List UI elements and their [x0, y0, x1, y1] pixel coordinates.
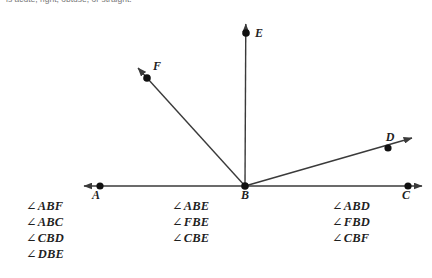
- point-label-E: E: [254, 26, 263, 40]
- angle-item[interactable]: ∠ABF: [26, 198, 64, 214]
- geometry-worksheet-page: is acute, right, obtuse, or straight. A …: [0, 0, 432, 278]
- angle-item[interactable]: ∠CBF: [332, 230, 370, 246]
- angle-column-2: ∠ABE ∠FBE ∠CBE: [172, 198, 209, 246]
- angle-item[interactable]: ∠DBE: [26, 246, 64, 262]
- point-label-F: F: [152, 59, 161, 73]
- angle-item[interactable]: ∠ABE: [172, 198, 209, 214]
- point-D: [384, 144, 391, 151]
- angle-item[interactable]: ∠ABC: [26, 214, 64, 230]
- angle-item-label: ABE: [184, 199, 210, 213]
- angle-symbol-icon: ∠: [332, 231, 344, 245]
- angle-item[interactable]: ∠CBE: [172, 230, 209, 246]
- angle-symbol-icon: ∠: [332, 199, 344, 213]
- point-label-D: D: [385, 130, 395, 144]
- angle-item-label: ABC: [38, 215, 64, 229]
- angle-symbol-icon: ∠: [172, 231, 184, 245]
- angle-symbol-icon: ∠: [26, 231, 38, 245]
- angle-item[interactable]: ∠CBD: [26, 230, 64, 246]
- angle-column-3: ∠ABD ∠FBD ∠CBF: [332, 198, 370, 246]
- angle-diagram: A B C D E F: [0, 0, 432, 200]
- angle-item[interactable]: ∠ABD: [332, 198, 370, 214]
- angle-item-label: FBD: [344, 215, 370, 229]
- angle-item-label: CBF: [344, 231, 370, 245]
- angle-item-label: CBD: [38, 231, 64, 245]
- angle-symbol-icon: ∠: [172, 215, 184, 229]
- point-F: [143, 74, 151, 82]
- angle-item[interactable]: ∠FBE: [172, 214, 209, 230]
- ray-BF: [138, 68, 245, 186]
- angle-item-label: DBE: [38, 247, 64, 261]
- angle-item-label: CBE: [184, 231, 210, 245]
- angle-item[interactable]: ∠FBD: [332, 214, 370, 230]
- angle-item-label: FBE: [184, 215, 210, 229]
- point-E: [242, 29, 250, 37]
- angle-item-label: ABD: [344, 199, 370, 213]
- angle-symbol-icon: ∠: [26, 199, 38, 213]
- angle-column-1: ∠ABF ∠ABC ∠CBD ∠DBE: [26, 198, 64, 262]
- angle-name-list: ∠ABF ∠ABC ∠CBD ∠DBE ∠ABE ∠FBE ∠CBE: [0, 198, 432, 278]
- angle-symbol-icon: ∠: [172, 199, 184, 213]
- angle-symbol-icon: ∠: [26, 215, 38, 229]
- angle-item-label: ABF: [38, 199, 64, 213]
- angle-symbol-icon: ∠: [332, 215, 344, 229]
- angle-symbol-icon: ∠: [26, 247, 38, 261]
- ray-BE: [245, 24, 246, 186]
